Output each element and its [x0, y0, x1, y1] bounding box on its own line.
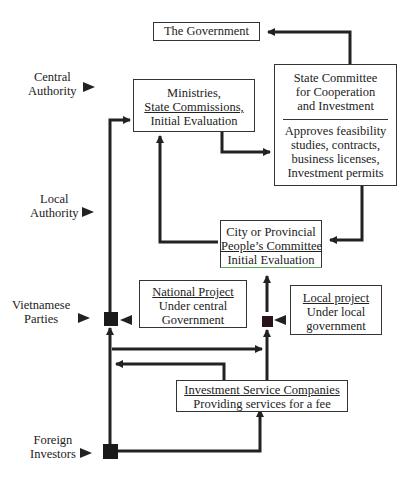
foreign-node	[103, 444, 118, 459]
box-text: State Commissions,	[134, 100, 254, 114]
box-text: State Committee	[275, 71, 396, 85]
box-text: Ministries,	[134, 86, 254, 100]
box-text: and Investment	[275, 99, 396, 113]
box-text: Initial Evaluation	[134, 114, 254, 128]
box-text: for Cooperation	[275, 85, 396, 99]
box-text: National Project	[140, 285, 246, 299]
box-text: Providing services for a fee	[177, 397, 347, 411]
box-text: Initial Evaluation	[221, 253, 321, 267]
box-city-committee: City or Provincial People’s Committee In…	[220, 220, 322, 268]
box-government: The Government	[153, 22, 260, 41]
box-ministries: Ministries, State Commissions, Initial E…	[133, 79, 255, 132]
box-text: Investment permits	[275, 166, 396, 180]
box-service-companies: Investment Service Companies Providing s…	[176, 380, 348, 412]
divider	[283, 119, 388, 120]
box-local-project: Local project Under local government	[290, 285, 382, 335]
box-text: Investment Service Companies	[177, 383, 347, 397]
box-text: People’s Committee	[221, 239, 321, 253]
local-node	[262, 316, 273, 327]
box-text: Under local	[291, 305, 381, 319]
box-text: The Government	[154, 23, 259, 40]
vietnamese-node	[104, 312, 118, 326]
box-text: government	[291, 319, 381, 333]
box-national-project: National Project Under central Governmen…	[139, 280, 247, 328]
box-text: business licenses,	[275, 152, 396, 166]
box-text: Approves feasibility	[275, 124, 396, 138]
box-text: studies, contracts,	[275, 138, 396, 152]
box-text: Local project	[291, 291, 381, 305]
box-text: Government	[140, 313, 246, 327]
box-state-committee: State Committee for Cooperation and Inve…	[274, 64, 397, 186]
box-text: Under central	[140, 299, 246, 313]
box-text: City or Provincial	[221, 225, 321, 239]
